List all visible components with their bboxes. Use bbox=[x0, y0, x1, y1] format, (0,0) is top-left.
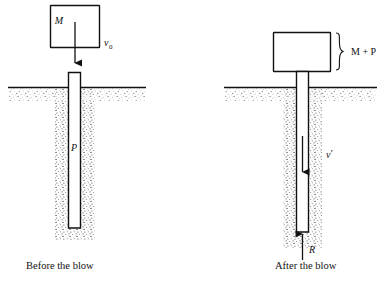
panel-after: M + P v′ R After the blow bbox=[224, 33, 377, 272]
hammer-pile-block-after bbox=[274, 33, 331, 72]
brace-after bbox=[336, 33, 343, 70]
hammer-mass-label: M bbox=[54, 15, 64, 26]
pile-label-before: P bbox=[70, 142, 77, 153]
caption-after: After the blow bbox=[275, 260, 337, 271]
reaction-force-label: R bbox=[308, 244, 315, 255]
panel-before: M v0 P Before the blow bbox=[8, 6, 146, 272]
caption-before: Before the blow bbox=[26, 260, 94, 271]
velocity-label-before: v0 bbox=[104, 37, 113, 51]
combined-mass-label: M + P bbox=[351, 46, 377, 57]
diagram-canvas: M v0 P Before the blow bbox=[0, 0, 388, 281]
velocity-label-after: v′ bbox=[326, 148, 333, 160]
physics-figure: M v0 P Before the blow bbox=[0, 0, 388, 281]
